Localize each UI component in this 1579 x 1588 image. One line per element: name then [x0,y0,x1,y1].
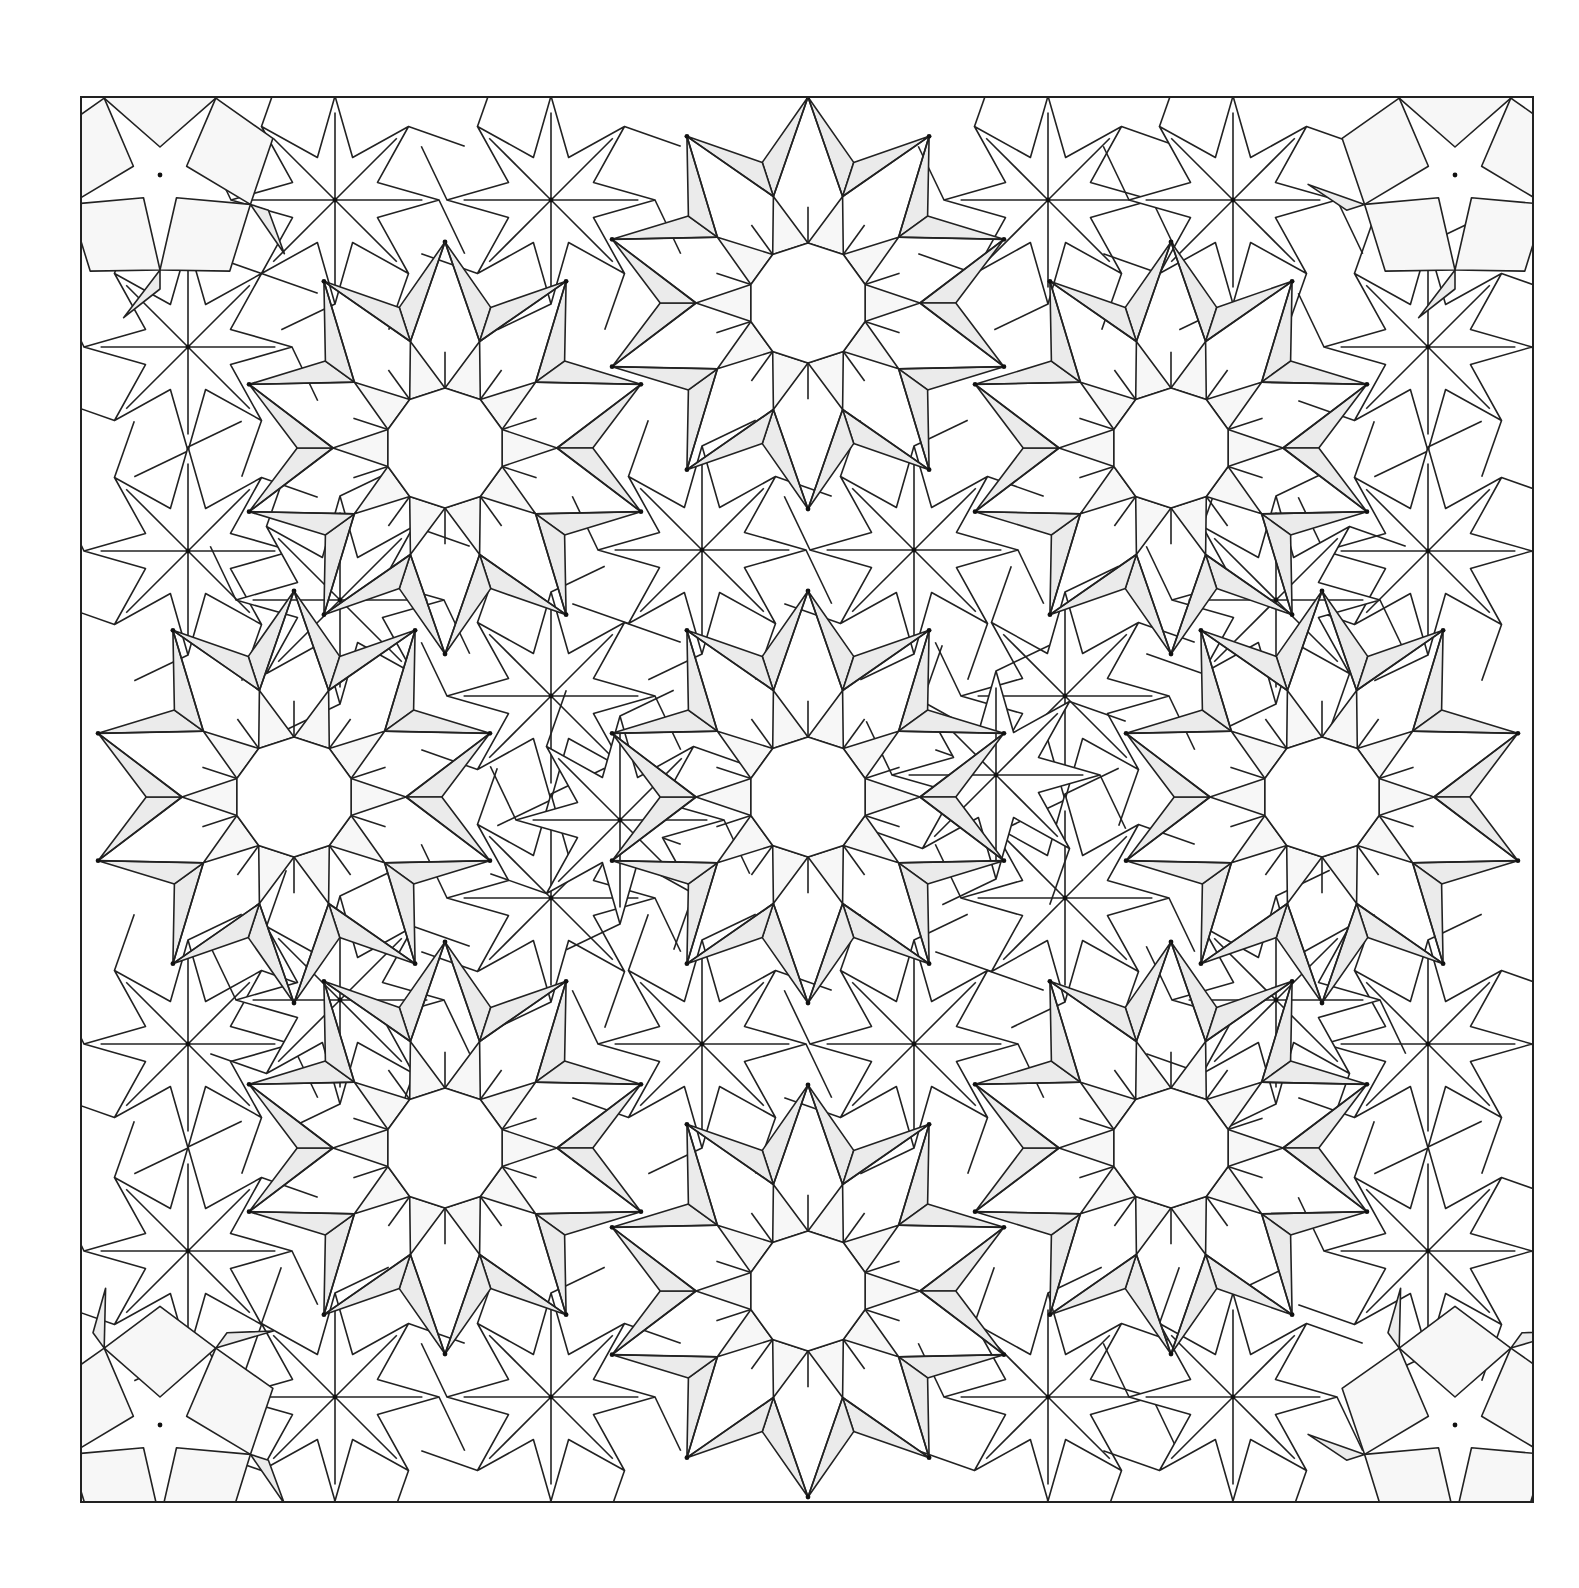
vertex-node [610,858,615,863]
vertex-node [186,1042,191,1047]
vertex-node [1365,1082,1370,1087]
vertex-node [927,1455,932,1460]
vertex-node [639,1082,644,1087]
shaded-dart [1545,204,1579,253]
decagon-center [237,737,351,857]
star-edge [1179,1501,1233,1527]
shaded-dart [1545,1454,1579,1503]
decagon-center [751,1231,865,1351]
vertex-node [1048,1312,1053,1317]
vertex-node [610,1225,615,1230]
vertex-node [1290,979,1295,984]
vertex-node [1453,173,1458,178]
vertex-node [1426,345,1431,350]
vertex-node [333,1395,338,1400]
vertex-node [1046,1395,1051,1400]
vertex-node [994,773,999,778]
vertex-node [1426,549,1431,554]
vertex-node [618,818,623,823]
vertex-node [610,731,615,736]
vertex-node [1426,1042,1431,1047]
vertex-node [685,961,690,966]
vertex-node [806,507,811,512]
vertex-node [1199,961,1204,966]
vertex-node [1441,961,1446,966]
decagon-center [388,1088,502,1208]
shaded-dart [93,38,106,98]
vertex-node [1365,1209,1370,1214]
vertex-node [973,1209,978,1214]
vertex-node [912,548,917,553]
shaded-dart [13,1434,70,1460]
vertex-node [1169,1352,1174,1357]
vertex-node [158,173,163,178]
star-edge [497,1501,551,1527]
vertex-node [549,198,554,203]
shaded-dart [216,81,273,98]
vertex-node [1231,198,1236,203]
vertex-node [1320,1001,1325,1006]
star-edge [1532,347,1558,401]
vertex-node [564,979,569,984]
vertex-node [158,1423,163,1428]
vertex-node [1290,1312,1295,1317]
vertex-node [685,467,690,472]
vertex-node [413,961,418,966]
vertex-node [322,612,327,617]
vertex-node [1274,998,1279,1003]
vertex-node [171,628,176,633]
vertex-node [1426,1249,1431,1254]
vertex-node [322,279,327,284]
vertex-node [685,134,690,139]
vertex-node [96,731,101,736]
star-edge [281,1501,335,1527]
vertex-node [338,998,343,1003]
vertex-node [1453,1423,1458,1428]
vertex-node [973,1082,978,1087]
vertex-node [1231,1395,1236,1400]
vertex-node [1002,1352,1007,1357]
star-edge [994,1501,1048,1527]
vertex-node [685,1455,690,1460]
corner-petal [70,1448,160,1521]
vertex-node [927,1122,932,1127]
star-edge [1532,1251,1558,1305]
vertex-node [1290,612,1295,617]
vertex-node [1048,612,1053,617]
vertex-node [1199,628,1204,633]
pattern-group [13,38,1579,1568]
vertex-node [186,345,191,350]
vertex-node [549,896,554,901]
vertex-node [1290,279,1295,284]
vertex-node [1063,694,1068,699]
vertex-node [247,1082,252,1087]
tiling-svg [0,0,1579,1588]
vertex-node [927,628,932,633]
vertex-node [488,731,493,736]
tiling-figure [0,0,1579,1588]
star-edge [335,70,389,96]
vertex-node [1124,731,1129,736]
vertex-node [610,1352,615,1357]
shaded-dart [124,1520,160,1568]
star-edge [1233,70,1287,96]
vertex-node [1516,858,1521,863]
vertex-node [443,1352,448,1357]
vertex-node [973,382,978,387]
decagon-center [388,388,502,508]
vertex-node [927,467,932,472]
vertex-node [1063,896,1068,901]
vertex-node [639,382,644,387]
vertex-node [927,961,932,966]
vertex-node [171,961,176,966]
star-edge [1532,1044,1558,1098]
shaded-dart [1388,38,1401,98]
vertex-node [247,1209,252,1214]
vertex-node [1048,279,1053,284]
decagon-center [1114,1088,1228,1208]
vertex-node [1002,858,1007,863]
star-edge [551,70,605,96]
vertex-node [1002,237,1007,242]
vertex-node [186,1249,191,1254]
decagon-center [1265,737,1379,857]
